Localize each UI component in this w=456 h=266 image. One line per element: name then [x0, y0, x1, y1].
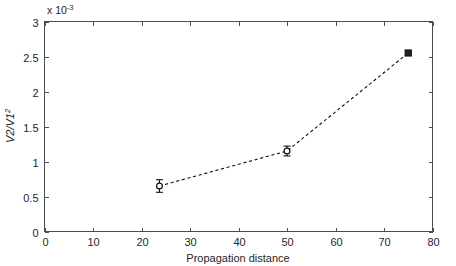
y-axis-title-exponent: 2: [3, 108, 12, 114]
y-axis-title: V2/V12: [3, 108, 17, 143]
x-tick-label: 60: [330, 236, 342, 248]
y-tick-label: 2.5: [23, 52, 38, 64]
y-tick-label: 0.5: [23, 192, 38, 204]
x-tick-label: 50: [281, 236, 293, 248]
x-tick-label: 0: [42, 236, 48, 248]
data-marker-circle: [284, 148, 290, 154]
x-tick-label: 10: [87, 236, 99, 248]
y-tick-label: 0: [32, 227, 38, 239]
figure-container: 01020304050607080 00.511.522.53 x 10-3 P…: [0, 0, 456, 266]
x-axis-title: Propagation distance: [186, 252, 289, 264]
exponent-base: x 10: [47, 4, 67, 16]
data-point-group: [405, 50, 412, 56]
scientific-line-chart: 01020304050607080 00.511.522.53 x 10-3 P…: [0, 0, 456, 266]
x-tick-label: 80: [427, 236, 439, 248]
y-tick-label: 2: [32, 87, 38, 99]
x-tick-label: 40: [233, 236, 245, 248]
data-marker-circle: [157, 183, 163, 189]
chart-background: [0, 0, 456, 266]
data-marker-square: [405, 50, 411, 56]
y-tick-label: 1.5: [23, 122, 38, 134]
x-tick-label: 70: [378, 236, 390, 248]
y-axis-title-base: V2/V1: [4, 113, 16, 143]
x-tick-label: 30: [184, 236, 196, 248]
exponent-power: -3: [67, 3, 74, 12]
y-tick-label: 1: [32, 157, 38, 169]
y-tick-label: 3: [32, 17, 38, 29]
x-tick-label: 20: [136, 236, 148, 248]
